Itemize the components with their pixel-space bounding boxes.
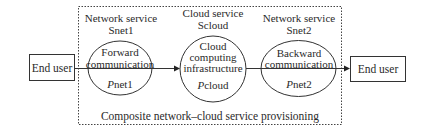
network-service-1-heading: Network service — [80, 12, 162, 24]
cloud-service-param: Pcloud — [175, 79, 251, 91]
param-prefix: P — [107, 78, 114, 90]
cloud-service-name: Scloud — [170, 19, 256, 31]
param-prefix: P — [286, 78, 293, 90]
network-service-1-line1: Forward — [85, 46, 155, 58]
composite-caption: Composite network–cloud service provisio… — [80, 110, 340, 122]
network-service-1-name: Snet1 — [80, 24, 162, 36]
network-service-1-line2: communication — [85, 58, 155, 70]
cloud-service-heading: Cloud service — [170, 7, 256, 19]
network-service-1-param: Pnet1 — [85, 78, 155, 90]
network-service-2-name: Snet2 — [258, 24, 340, 36]
end-user-right-label: End user — [358, 63, 399, 75]
cloud-service-line3: infrastructure — [175, 62, 251, 74]
end-user-left-box: End user — [29, 54, 75, 81]
param-suffix: net1 — [114, 78, 133, 90]
network-service-2-line2: communication — [260, 58, 338, 70]
param-suffix: cloud — [204, 79, 228, 91]
network-service-2-heading: Network service — [258, 12, 340, 24]
param-suffix: net2 — [293, 78, 312, 90]
end-user-left-label: End user — [32, 62, 73, 74]
end-user-right-box: End user — [350, 56, 406, 82]
network-service-2-param: Pnet2 — [260, 78, 338, 90]
